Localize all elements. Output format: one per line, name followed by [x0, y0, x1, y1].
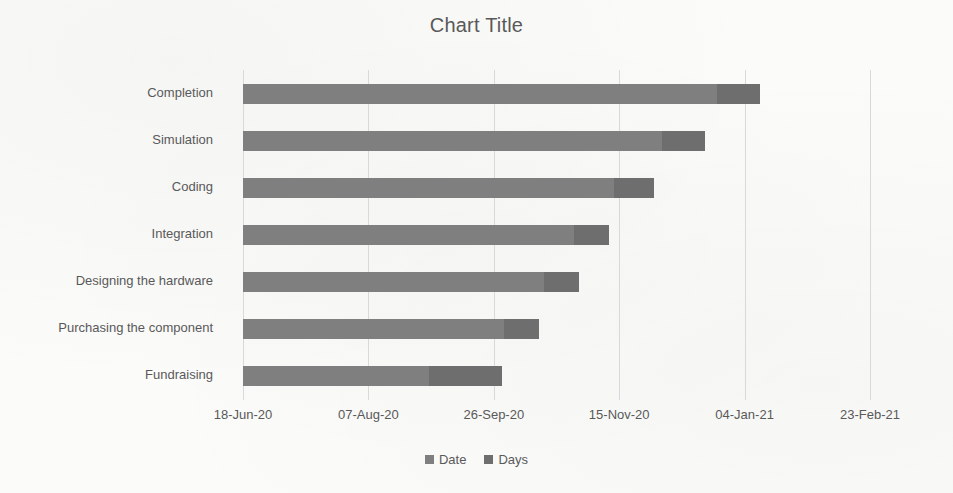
- x-axis-tick-label: 07-Aug-20: [338, 407, 399, 422]
- bar-segment-date[interactable]: [243, 131, 662, 151]
- bar-segment-date[interactable]: [243, 84, 717, 104]
- legend-item[interactable]: Days: [484, 452, 528, 467]
- bar-segment-days[interactable]: [574, 225, 609, 245]
- chart-legend: DateDays: [0, 452, 953, 467]
- bar-segment-days[interactable]: [662, 131, 705, 151]
- legend-item[interactable]: Date: [425, 452, 466, 467]
- bar-segment-date[interactable]: [243, 366, 429, 386]
- x-axis-tick-label: 18-Jun-20: [214, 407, 273, 422]
- bar-row[interactable]: [243, 84, 760, 104]
- bar-segment-date[interactable]: [243, 319, 504, 339]
- bar-row[interactable]: [243, 131, 705, 151]
- bar-row[interactable]: [243, 178, 654, 198]
- bar-segment-days[interactable]: [544, 272, 579, 292]
- y-axis-label: Purchasing the component: [0, 320, 223, 335]
- legend-swatch-icon: [484, 455, 493, 464]
- bar-row[interactable]: [243, 319, 539, 339]
- x-axis-tick-label: 26-Sep-20: [463, 407, 524, 422]
- y-axis-label: Completion: [0, 85, 223, 100]
- legend-swatch-icon: [425, 455, 434, 464]
- plot-area: [243, 70, 870, 400]
- y-axis-label: Fundraising: [0, 367, 223, 382]
- bar-segment-days[interactable]: [429, 366, 502, 386]
- bar-row[interactable]: [243, 225, 609, 245]
- chart-title: Chart Title: [0, 14, 953, 37]
- bar-segment-days[interactable]: [614, 178, 654, 198]
- x-axis-tick-labels: 18-Jun-2007-Aug-2026-Sep-2015-Nov-2004-J…: [0, 407, 953, 431]
- bar-segment-date[interactable]: [243, 178, 614, 198]
- legend-label: Days: [498, 452, 528, 467]
- gridline-5: [870, 70, 871, 400]
- bar-segment-date[interactable]: [243, 225, 574, 245]
- chart-container: Chart Title CompletionSimulationCodingIn…: [0, 0, 953, 493]
- y-axis-label: Simulation: [0, 132, 223, 147]
- bar-segment-days[interactable]: [717, 84, 760, 104]
- bar-segment-days[interactable]: [504, 319, 539, 339]
- y-axis-category-labels: CompletionSimulationCodingIntegrationDes…: [0, 70, 233, 400]
- x-axis-tick-label: 15-Nov-20: [589, 407, 650, 422]
- x-axis-tick-label: 23-Feb-21: [840, 407, 900, 422]
- y-axis-label: Integration: [0, 226, 223, 241]
- legend-label: Date: [439, 452, 466, 467]
- gridline-3: [619, 70, 620, 400]
- y-axis-label: Coding: [0, 179, 223, 194]
- gridline-4: [745, 70, 746, 400]
- bar-row[interactable]: [243, 272, 579, 292]
- x-axis-tick-label: 04-Jan-21: [715, 407, 774, 422]
- bar-row[interactable]: [243, 366, 502, 386]
- bar-segment-date[interactable]: [243, 272, 544, 292]
- y-axis-label: Designing the hardware: [0, 273, 223, 288]
